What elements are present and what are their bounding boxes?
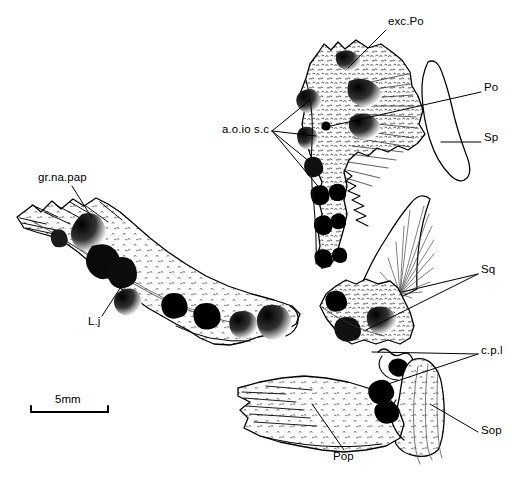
label-po: Po — [484, 82, 498, 94]
scale-bar-label: 5mm — [55, 393, 81, 405]
label-sp: Sp — [484, 132, 498, 144]
bone-preoperculum-lower — [238, 376, 404, 452]
label-sq: Sq — [481, 264, 495, 276]
label-cpl: c.p.l — [481, 345, 503, 357]
bone-lower-jaw — [17, 198, 300, 345]
scale-bar — [31, 406, 108, 412]
label-gr-na-pap: gr.na.pap — [38, 172, 87, 184]
label-aoiosc: a.o.io s.c — [222, 124, 269, 136]
bone-suprapreoperculum — [422, 61, 470, 181]
anatomical-line-drawing — [0, 0, 522, 487]
label-exc-po: exc.Po — [388, 16, 424, 28]
figure-plate: exc.Po Po Sp a.o.io s.c gr.na.pap L.j Sq… — [0, 0, 522, 487]
label-pop: Pop — [333, 451, 354, 463]
label-sop: Sop — [481, 425, 502, 437]
label-lj: L.j — [88, 316, 100, 328]
